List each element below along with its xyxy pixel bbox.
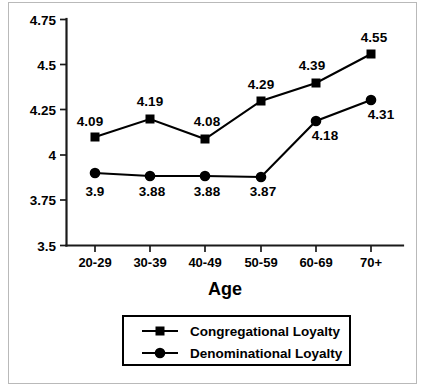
x-axis-ticks: 20-29 30-39 40-49 50-59 60-69 70+ <box>78 246 382 271</box>
data-point-marker-square <box>257 97 266 106</box>
data-point-marker-circle <box>90 168 101 179</box>
data-label: 3.88 <box>194 184 221 199</box>
data-label: 3.87 <box>250 184 276 199</box>
series-congregational-loyalty: 4.09 4.19 4.08 4.29 4.39 4.55 <box>77 30 388 144</box>
data-point-marker-circle <box>200 171 211 182</box>
data-point-marker-square <box>201 135 210 144</box>
legend-marker-square-icon <box>156 327 165 336</box>
data-label: 4.18 <box>312 128 339 143</box>
data-point-marker-circle <box>366 95 377 106</box>
data-label: 4.31 <box>368 107 395 122</box>
y-tick-label: 4 <box>48 148 56 163</box>
data-point-marker-square <box>312 79 321 88</box>
y-tick-label: 4.25 <box>30 103 57 118</box>
data-point-marker-square <box>367 50 376 59</box>
y-tick-label: 4.75 <box>30 13 57 28</box>
x-tick-label: 30-39 <box>133 255 166 270</box>
x-tick-label: 60-69 <box>299 255 332 270</box>
y-tick-label: 4.5 <box>37 58 56 73</box>
line-chart: 4.75 4.5 4.25 4 3.75 3.5 20-29 30-39 40-… <box>0 0 431 392</box>
x-tick-label: 50-59 <box>244 255 277 270</box>
data-point-marker-circle <box>311 116 322 127</box>
y-axis-ticks: 4.75 4.5 4.25 4 3.75 3.5 <box>30 13 67 254</box>
data-label: 3.9 <box>86 184 105 199</box>
x-tick-label: 40-49 <box>188 255 221 270</box>
legend-label: Denominational Loyalty <box>190 346 343 361</box>
y-tick-label: 3.75 <box>30 193 57 208</box>
axes <box>67 19 404 246</box>
chart-figure: 4.75 4.5 4.25 4 3.75 3.5 20-29 30-39 40-… <box>0 0 431 392</box>
x-axis-title: Age <box>208 279 242 299</box>
data-point-marker-circle <box>256 172 267 183</box>
legend-marker-circle-icon <box>155 348 166 359</box>
series-denominational-loyalty: 3.9 3.88 3.88 3.87 4.18 4.31 <box>86 95 395 199</box>
data-point-marker-square <box>91 133 100 142</box>
data-point-marker-circle <box>145 171 156 182</box>
x-tick-label: 20-29 <box>78 255 111 270</box>
data-label: 3.88 <box>139 184 166 199</box>
y-tick-label: 3.5 <box>37 239 56 254</box>
data-label: 4.08 <box>194 114 221 129</box>
chart-legend: Congregational Loyalty Denominational Lo… <box>123 316 350 365</box>
data-label: 4.29 <box>248 77 274 92</box>
legend-label: Congregational Loyalty <box>190 324 341 339</box>
x-tick-label: 70+ <box>360 255 382 270</box>
data-label: 4.55 <box>361 30 388 45</box>
data-label: 4.19 <box>137 94 163 109</box>
data-label: 4.09 <box>77 114 103 129</box>
data-label: 4.39 <box>299 58 325 73</box>
data-point-marker-square <box>146 115 155 124</box>
